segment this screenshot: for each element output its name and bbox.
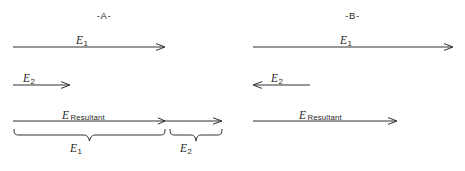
- brace-e1-symbol: E: [70, 142, 77, 154]
- panel-b: -B- E1 E2 EResultant: [232, 0, 465, 171]
- field-vector-diagram: -A- E1 E2 EResultant: [0, 0, 465, 171]
- panel-b-arrow-e2: [253, 80, 310, 90]
- panel-a-vector-resultant: EResultant: [13, 100, 222, 126]
- brace-e2-subscript: 2: [187, 147, 192, 156]
- panel-b-vector-e2: E2: [253, 64, 310, 90]
- panel-b-title: -B-: [236, 10, 465, 21]
- panel-a-brace-e2: [169, 129, 223, 142]
- panel-b-vector-resultant: EResultant: [253, 100, 397, 126]
- brace-e1-subscript: 1: [77, 147, 82, 156]
- panel-b-vector-e1: E1: [253, 26, 453, 52]
- panel-a-title: -A-: [0, 10, 220, 21]
- panel-a-vector-e1: E1: [13, 26, 165, 52]
- panel-a-brace-e1: [13, 129, 166, 142]
- panel-a-arrow-resultant: [13, 116, 222, 126]
- panel-a-arrow-e2: [13, 80, 70, 90]
- panel-a-brace-e2-label: E2: [180, 143, 192, 156]
- panel-a-vector-e2: E2: [13, 64, 70, 90]
- panel-a-brace-e1-label: E1: [70, 143, 82, 156]
- panel-a-arrow-e1: [13, 42, 165, 52]
- panel-a: -A- E1 E2 EResultant: [0, 0, 232, 171]
- panel-b-arrow-e1: [253, 42, 453, 52]
- panel-b-arrow-resultant: [253, 116, 397, 126]
- brace-e2-symbol: E: [180, 142, 187, 154]
